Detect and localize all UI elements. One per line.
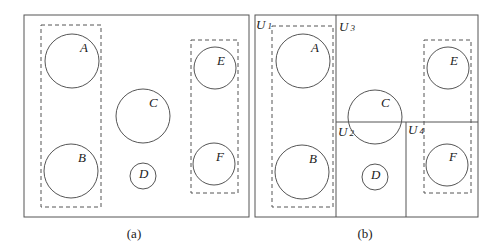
label-f: F [215, 149, 225, 164]
label-d: D [138, 166, 149, 181]
circle-f [193, 143, 235, 185]
group-ef-box [424, 40, 471, 193]
region-u4: U4 [408, 122, 424, 137]
circle-a [276, 34, 330, 88]
caption-a: (a) [127, 226, 141, 241]
label-a: A [79, 40, 88, 55]
circle-a [45, 34, 99, 88]
label-d: D [370, 167, 381, 182]
circle-e [427, 47, 469, 89]
label-e: E [449, 53, 458, 68]
panel-a-labels: A B C D E F (a) [78, 40, 225, 241]
circle-f [426, 144, 468, 186]
label-b: B [309, 151, 317, 166]
panel-a [24, 15, 249, 217]
caption-b: (b) [357, 226, 372, 241]
label-c: C [149, 95, 158, 110]
label-e: E [216, 53, 225, 68]
circle-b [44, 144, 98, 198]
panel-b [255, 15, 478, 217]
region-u3: U3 [339, 19, 355, 34]
group-ab-box [41, 25, 101, 207]
label-b: B [78, 150, 86, 165]
circle-e [194, 47, 236, 89]
circle-b [275, 145, 329, 199]
label-a: A [310, 40, 319, 55]
diagram-canvas: A B C D E F (a) A B C D E F U1 U3 U2 U4 … [0, 0, 502, 249]
group-ef-box [191, 40, 238, 193]
region-u1: U1 [256, 17, 272, 32]
label-c: C [381, 95, 390, 110]
region-u2: U2 [338, 124, 354, 139]
label-f: F [448, 149, 458, 164]
group-ab-box [272, 26, 333, 207]
circle-c [116, 89, 170, 143]
circle-c [348, 90, 402, 144]
